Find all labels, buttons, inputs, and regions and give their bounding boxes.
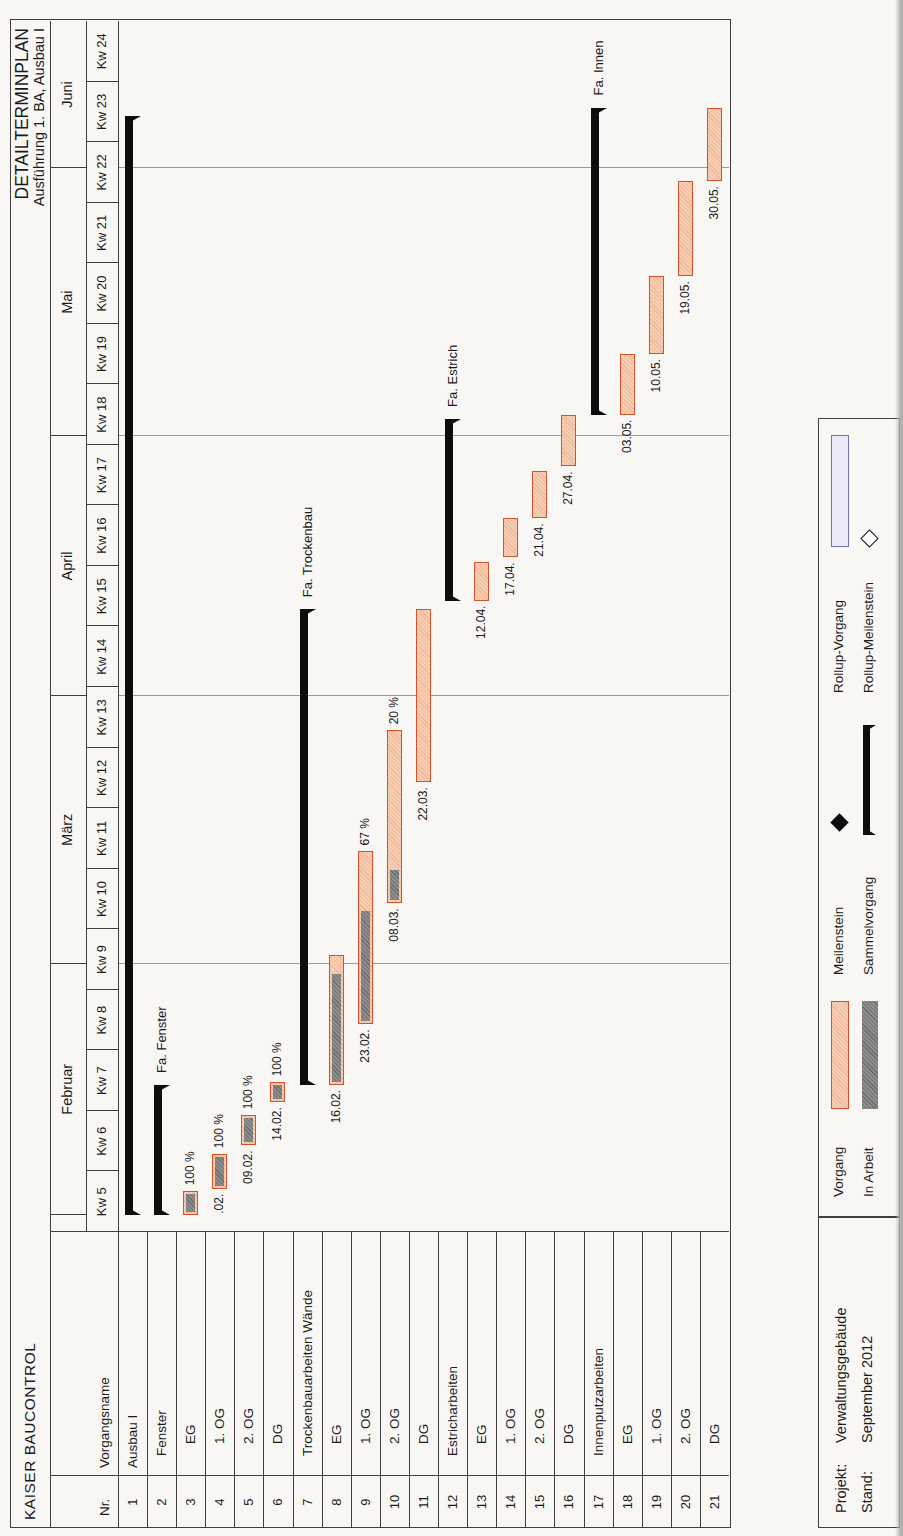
legend-label: Sammelvorgang xyxy=(861,877,876,975)
week-cell-label: Kw 20 xyxy=(94,263,109,324)
bar-start-date-label: 30.05. xyxy=(700,186,729,266)
task-row-number: 20 xyxy=(671,1476,700,1528)
summary-end-tip xyxy=(591,108,607,117)
contractor-label: Fa. Innen xyxy=(584,41,613,96)
legend-label: Rollup-Meilenstein xyxy=(861,582,876,693)
task-bar xyxy=(358,851,373,1024)
week-cell-label: Kw 18 xyxy=(94,384,109,445)
task-row-name: DG xyxy=(263,1236,292,1444)
legend-in-arbeit-swatch xyxy=(862,1001,878,1109)
task-progress-fill xyxy=(390,870,399,900)
task-progress-fill xyxy=(244,1118,253,1142)
month-gridline xyxy=(118,963,729,964)
week-cell-label: Kw 12 xyxy=(94,748,109,809)
task-bar xyxy=(212,1154,227,1189)
stand-value: September 2012 xyxy=(859,1336,875,1443)
week-cell-label: Kw 21 xyxy=(94,203,109,264)
task-bar xyxy=(270,1082,285,1102)
task-row-number: 4 xyxy=(205,1476,234,1528)
week-cell-label: Kw 6 xyxy=(94,1111,109,1172)
task-bar xyxy=(474,562,489,601)
legend-box: VorgangIn ArbeitMeilensteinSammelvorgang… xyxy=(818,418,900,1218)
task-progress-fill xyxy=(186,1194,195,1211)
task-row-number: 17 xyxy=(584,1476,613,1528)
legend-rollup-bar-swatch xyxy=(831,435,849,547)
summary-bar-body xyxy=(154,1085,162,1215)
task-row-name: DG xyxy=(554,1236,583,1444)
task-row-number: 2 xyxy=(147,1476,176,1528)
task-row-number: 12 xyxy=(438,1476,467,1528)
project-info-box: Projekt: Verwaltungsgebäude Stand: Septe… xyxy=(818,1216,900,1528)
task-row-number: 8 xyxy=(322,1476,351,1528)
task-row-name: 1. OG xyxy=(642,1236,671,1444)
week-cell-label: Kw 8 xyxy=(94,990,109,1051)
task-row-name: 1. OG xyxy=(351,1236,380,1444)
summary-start-tip xyxy=(125,1206,141,1215)
gantt-plan-landscape: KAISER BAUCONTROL DETAILTERMINPLAN Ausfü… xyxy=(0,0,903,1536)
task-row-number: 7 xyxy=(293,1476,322,1528)
summary-bar xyxy=(591,108,607,415)
page-edge-shadow xyxy=(895,0,903,1536)
legend-label: Rollup-Vorgang xyxy=(831,600,846,693)
task-row-name: Ausbau I xyxy=(118,1236,147,1468)
bar-progress-label: 100 % xyxy=(205,1114,234,1148)
legend-summary-end-tip xyxy=(863,725,876,733)
legend-summary-start-tip xyxy=(863,827,876,835)
task-row-name: DG xyxy=(409,1236,438,1444)
week-cell-label: Kw 15 xyxy=(94,566,109,627)
bar-start-date-label: 08.03. xyxy=(380,908,409,988)
bar-start-date-label: 21.04. xyxy=(525,523,554,603)
bar-progress-label: 100 % xyxy=(234,1075,263,1109)
bar-start-date-label: 12.04. xyxy=(467,606,496,686)
week-cell-label: Kw 9 xyxy=(94,929,109,990)
legend-summary-bar-swatch xyxy=(863,725,877,835)
bar-start-date-label: 22.03. xyxy=(409,787,438,867)
month-gridline xyxy=(118,167,729,168)
task-row-number: 16 xyxy=(554,1476,583,1528)
legend-rollup-milestone-icon xyxy=(860,529,878,547)
week-cell-label: Kw 14 xyxy=(94,627,109,688)
table-chart-divider xyxy=(50,1231,729,1232)
grid-top-line xyxy=(50,21,51,1528)
task-bar xyxy=(678,181,693,276)
task-bar xyxy=(620,354,635,415)
summary-end-tip xyxy=(445,419,461,428)
task-row-name: 2. OG xyxy=(525,1236,554,1444)
task-progress-fill xyxy=(361,911,370,1022)
week-cell-label: Kw 19 xyxy=(94,324,109,385)
task-progress-fill xyxy=(273,1085,282,1099)
week-cell-label: Kw 7 xyxy=(94,1050,109,1111)
week-cell-label: Kw 22 xyxy=(94,142,109,203)
week-row-top-line xyxy=(86,21,87,1232)
task-row-name: EG xyxy=(613,1236,642,1444)
task-bar xyxy=(387,730,402,903)
task-row-number: 1 xyxy=(118,1476,147,1528)
task-bar xyxy=(416,609,431,782)
task-row-name: Fenster xyxy=(147,1236,176,1456)
stand-label: Stand: xyxy=(859,1471,875,1513)
week-cell-label: Kw 24 xyxy=(94,21,109,82)
bar-start-date-label: 23.02. xyxy=(351,1029,380,1109)
summary-start-tip xyxy=(445,592,461,601)
bar-start-date-label: 10.05. xyxy=(642,359,671,439)
legend-task-bar-swatch xyxy=(831,1001,849,1109)
task-row-number: 9 xyxy=(351,1476,380,1528)
task-row-name: 2. OG xyxy=(234,1236,263,1444)
summary-end-tip xyxy=(300,609,316,618)
task-row-number: 15 xyxy=(525,1476,554,1528)
bar-start-date-label: 03.05. xyxy=(613,420,642,500)
summary-bar xyxy=(125,116,141,1215)
task-bar xyxy=(183,1191,198,1214)
task-bar xyxy=(329,955,344,1085)
task-row-name: 2. OG xyxy=(380,1236,409,1444)
task-row-number: 3 xyxy=(176,1476,205,1528)
task-row-name: DG xyxy=(700,1236,729,1444)
week-cell-label: Kw 13 xyxy=(94,687,109,748)
week-cell-label: Kw 23 xyxy=(94,82,109,143)
task-row-number: 5 xyxy=(234,1476,263,1528)
task-row-number: 21 xyxy=(700,1476,729,1528)
bar-progress-label: 100 % xyxy=(176,1151,205,1185)
week-cell-label: Kw 16 xyxy=(94,505,109,566)
legend-label: In Arbeit xyxy=(861,1147,876,1197)
project-label: Projekt: xyxy=(833,1464,849,1513)
